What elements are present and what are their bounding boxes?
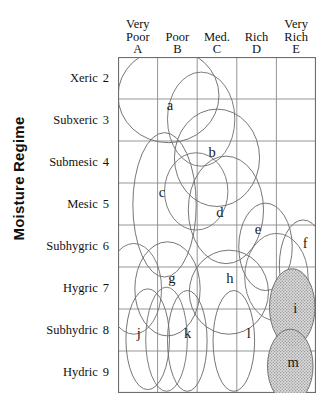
- edatopic-grid-figure: Moisture Regime VeryPoorA PoorB Med.C Ri…: [0, 0, 329, 410]
- column-headers: VeryPoorA PoorB Med.C RichDVeryRichE: [118, 8, 316, 57]
- row-header-subhygric: Subhygric6: [18, 225, 114, 267]
- row-header-label: Subhydric: [46, 323, 97, 338]
- column-header-e: VeryRichE: [276, 8, 316, 57]
- site-ellipse-j: [126, 289, 170, 390]
- column-header-d: RichD: [237, 8, 277, 57]
- row-header-mesic: Mesic5: [18, 183, 114, 225]
- row-header-label: Xeric: [70, 71, 98, 86]
- site-ellipse-label-g: g: [168, 270, 175, 287]
- row-header-xeric: Xeric2: [18, 57, 114, 99]
- row-header-subxeric: Subxeric3: [18, 99, 114, 141]
- site-ellipse-label-f: f: [303, 235, 308, 252]
- row-header-label: Hygric: [63, 281, 98, 296]
- row-header-number: 9: [103, 365, 109, 380]
- ellipse-layer: [118, 57, 316, 393]
- column-header-code: E: [292, 43, 300, 56]
- site-ellipse-label-m: m: [288, 353, 299, 370]
- row-header-label: Subxeric: [53, 113, 97, 128]
- row-header-number: 7: [103, 281, 109, 296]
- site-ellipse-label-b: b: [208, 144, 215, 161]
- column-header-line1: Very: [284, 18, 308, 31]
- row-header-hydric: Hydric9: [18, 351, 114, 393]
- site-ellipse-label-i: i: [293, 299, 297, 316]
- row-header-number: 5: [103, 197, 109, 212]
- grid-plot-area: abcdefghijklm: [118, 57, 316, 393]
- column-header-c: Med.C: [197, 8, 237, 57]
- row-header-number: 2: [103, 71, 109, 86]
- row-header-submesic: Submesic4: [18, 141, 114, 183]
- column-header-b: PoorB: [158, 8, 198, 57]
- row-header-label: Mesic: [67, 197, 98, 212]
- site-ellipse-label-c: c: [159, 184, 165, 201]
- row-header-label: Hydric: [63, 365, 98, 380]
- row-header-number: 8: [103, 323, 109, 338]
- row-header-label: Submesic: [49, 155, 98, 170]
- site-ellipse-outline: [168, 72, 235, 166]
- site-ellipse-label-k: k: [184, 325, 191, 342]
- row-header-hygric: Hygric7: [18, 267, 114, 309]
- column-header-a: VeryPoorA: [118, 8, 158, 57]
- site-ellipse-label-d: d: [216, 204, 223, 221]
- row-header-label: Subhygric: [46, 239, 97, 254]
- row-header-number: 3: [103, 113, 109, 128]
- row-header-number: 4: [103, 155, 109, 170]
- column-header-code: D: [252, 43, 261, 56]
- site-ellipse-d: [188, 156, 263, 264]
- column-header-code: A: [133, 43, 142, 56]
- site-ellipse-label-h: h: [226, 270, 233, 287]
- row-header-subhydric: Subhydric8: [18, 309, 114, 351]
- row-header-number: 6: [103, 239, 109, 254]
- column-header-code: B: [173, 43, 181, 56]
- site-ellipse-label-j: j: [137, 325, 141, 342]
- column-header-line1: Very: [126, 18, 150, 31]
- site-ellipse-c: [133, 133, 196, 277]
- site-ellipse-outline: [146, 287, 188, 391]
- site-ellipse-label-a: a: [167, 97, 173, 114]
- column-header-code: C: [213, 43, 221, 56]
- site-ellipse-outline: [118, 243, 162, 334]
- site-ellipse-label-l: l: [247, 325, 251, 342]
- row-headers: Xeric2Subxeric3Submesic4Mesic5Subhygric6…: [18, 57, 114, 393]
- site-ellipse-label-e: e: [255, 221, 261, 238]
